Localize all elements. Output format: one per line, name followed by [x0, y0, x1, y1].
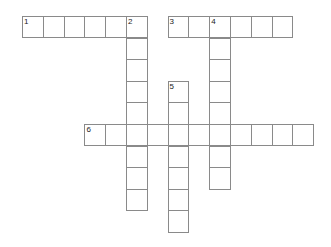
- crossword-cell[interactable]: [126, 38, 148, 60]
- crossword-cell[interactable]: [168, 189, 190, 211]
- crossword-cell[interactable]: [272, 16, 294, 38]
- clue-number: 5: [170, 82, 174, 91]
- crossword-cell[interactable]: [43, 16, 65, 38]
- crossword-cell[interactable]: [64, 16, 86, 38]
- crossword-cell[interactable]: [209, 167, 231, 189]
- crossword-cell[interactable]: [188, 124, 210, 146]
- crossword-cell[interactable]: 1: [22, 16, 44, 38]
- crossword-cell[interactable]: [126, 102, 148, 124]
- crossword-cell[interactable]: 5: [168, 81, 190, 103]
- clue-number: 2: [128, 17, 132, 26]
- crossword-cell[interactable]: 2: [126, 16, 148, 38]
- crossword-cell[interactable]: [292, 124, 314, 146]
- crossword-grid: 123456: [0, 0, 331, 247]
- clue-number: 1: [24, 17, 28, 26]
- crossword-cell[interactable]: [168, 210, 190, 232]
- crossword-cell[interactable]: [126, 59, 148, 81]
- clue-number: 6: [86, 125, 90, 134]
- crossword-cell[interactable]: [168, 167, 190, 189]
- crossword-cell[interactable]: [105, 16, 127, 38]
- crossword-cell[interactable]: [126, 189, 148, 211]
- crossword-cell[interactable]: [147, 124, 169, 146]
- crossword-cell[interactable]: [105, 124, 127, 146]
- crossword-cell[interactable]: [168, 124, 190, 146]
- crossword-cell[interactable]: [251, 16, 273, 38]
- crossword-cell[interactable]: [209, 146, 231, 168]
- clue-number: 3: [170, 17, 174, 26]
- crossword-cell[interactable]: [209, 124, 231, 146]
- clue-number: 4: [211, 17, 215, 26]
- crossword-cell[interactable]: [84, 16, 106, 38]
- crossword-cell[interactable]: [230, 16, 252, 38]
- crossword-cell[interactable]: 6: [84, 124, 106, 146]
- crossword-cell[interactable]: [209, 102, 231, 124]
- crossword-cell[interactable]: [209, 81, 231, 103]
- crossword-cell[interactable]: [126, 81, 148, 103]
- crossword-cell[interactable]: [126, 146, 148, 168]
- crossword-cell[interactable]: [251, 124, 273, 146]
- crossword-cell[interactable]: [209, 59, 231, 81]
- crossword-cell[interactable]: [168, 102, 190, 124]
- crossword-cell[interactable]: [230, 124, 252, 146]
- crossword-cell[interactable]: [272, 124, 294, 146]
- crossword-cell[interactable]: 3: [168, 16, 190, 38]
- crossword-cell[interactable]: [126, 124, 148, 146]
- crossword-cell[interactable]: [168, 146, 190, 168]
- crossword-cell[interactable]: [188, 16, 210, 38]
- crossword-cell[interactable]: [209, 38, 231, 60]
- crossword-cell[interactable]: 4: [209, 16, 231, 38]
- crossword-cell[interactable]: [126, 167, 148, 189]
